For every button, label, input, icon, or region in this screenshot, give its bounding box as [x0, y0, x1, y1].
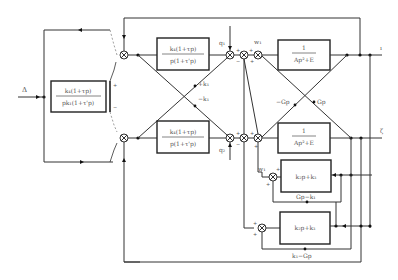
svg-text:k₁−Gp: k₁−Gp — [292, 252, 312, 260]
top-plant-block: 1 Ap²+E — [278, 40, 330, 70]
svg-text:+: + — [236, 130, 240, 136]
input-label: Δ — [22, 86, 27, 94]
svg-text:+: + — [253, 231, 257, 237]
svg-text:Ap²+E: Ap²+E — [293, 56, 314, 64]
svg-text:k₄(1+τp): k₄(1+τp) — [65, 87, 92, 95]
svg-text:−: − — [113, 104, 117, 110]
feedback-upper-block: k₂p+k₃ — [281, 160, 331, 192]
svg-text:−Gp: −Gp — [276, 98, 290, 106]
bottom-plant-block: 1 Ap²+E — [278, 123, 330, 153]
svg-text:q₂: q₂ — [219, 146, 226, 154]
svg-text:Gp: Gp — [317, 98, 326, 106]
svg-text:pk₁(1+τ'p): pk₁(1+τ'p) — [62, 99, 94, 107]
svg-text:p(1+τ'p): p(1+τ'p) — [170, 57, 196, 65]
sum-junction-q1 — [226, 51, 234, 59]
sum-junction-left-bottom — [120, 134, 128, 142]
svg-text:k₂p+k₃: k₂p+k₃ — [296, 173, 318, 181]
sum-junction-bottom-right — [254, 134, 262, 142]
svg-text:Gp−k₁: Gp−k₁ — [296, 193, 316, 201]
sum-junction-w1-mid — [269, 173, 277, 181]
svg-text:q₁: q₁ — [219, 39, 225, 47]
feedback-lower-block: k₂p+k₃ — [280, 212, 330, 244]
svg-text:1: 1 — [302, 127, 306, 134]
sum-junction-lower — [258, 224, 266, 232]
sum-junction-q2 — [226, 134, 234, 142]
svg-text:+k₁: +k₁ — [198, 80, 209, 87]
top-controller-block: k₄(1+τp) p(1+τ'p) — [157, 38, 209, 70]
sum-junction-top-mid — [240, 51, 248, 59]
svg-text:ı: ı — [380, 44, 382, 51]
svg-text:−: − — [236, 58, 240, 64]
svg-text:−: − — [236, 141, 240, 147]
block-diagram: Δ k₄(1+τp) pk₁(1+τ'p) + − +k₁ − — [0, 0, 398, 280]
svg-text:k₄(1+τp): k₄(1+τp) — [170, 45, 197, 53]
bottom-controller-block: k₄(1+τp) p(1+τ'p) — [157, 121, 209, 153]
svg-text:w₁: w₁ — [254, 38, 262, 45]
svg-text:+: + — [253, 220, 257, 226]
svg-text:−k₁: −k₁ — [198, 95, 209, 102]
svg-text:p(1+τ'p): p(1+τ'p) — [170, 140, 196, 148]
sum-junction-left-top — [120, 51, 128, 59]
svg-text:+: + — [250, 58, 254, 64]
svg-text:k₄(1+τp): k₄(1+τp) — [170, 128, 197, 136]
svg-text:ζ: ζ — [380, 127, 384, 135]
sum-junction-bottom-mid — [240, 134, 248, 142]
svg-text:1: 1 — [302, 44, 306, 51]
input-signal: Δ — [18, 86, 44, 99]
sum-junction-w1-top — [254, 51, 262, 59]
left-controller-block: k₄(1+τp) pk₁(1+τ'p) — [51, 81, 106, 112]
svg-text:w₁: w₁ — [258, 165, 266, 172]
svg-text:+: + — [249, 47, 253, 53]
svg-text:+: + — [113, 82, 117, 88]
svg-text:+: + — [236, 47, 240, 53]
svg-text:+: + — [250, 130, 254, 136]
svg-text:Ap²+E: Ap²+E — [293, 139, 314, 147]
svg-text:+: + — [276, 166, 280, 172]
svg-text:+: + — [266, 181, 270, 187]
svg-text:k₂p+k₃: k₂p+k₃ — [295, 224, 317, 232]
bottom-feedback-line — [124, 142, 140, 262]
